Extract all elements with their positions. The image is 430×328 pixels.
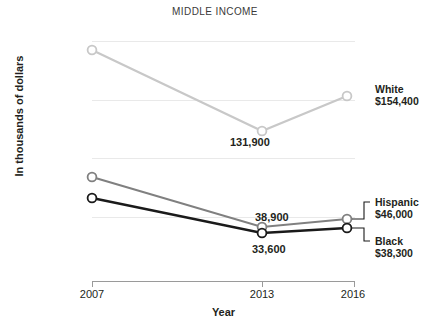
x-tick-mark-2016: [354, 281, 355, 287]
legend-entry-hispanic: Hispanic $46,000: [375, 196, 419, 220]
point-label-white-2013: 131,900: [230, 136, 270, 148]
legend-value-black: $38,300: [375, 247, 413, 259]
gridline-100: [92, 158, 355, 159]
legend-entry-black: Black $38,300: [375, 235, 413, 259]
x-tick-mark-2013: [262, 281, 263, 287]
legend-label-black: Black: [375, 235, 403, 247]
x-axis-title: Year: [92, 306, 355, 318]
x-axis-line: [92, 281, 355, 282]
legend-label-white: White: [375, 83, 404, 95]
legend-entry-white: White $154,400: [375, 83, 419, 107]
point-label-black-2013: 33,600: [252, 243, 286, 255]
x-tick-mark-2007: [92, 281, 93, 287]
gridline-150: [92, 100, 355, 101]
x-tick-label-2013: 2013: [250, 288, 274, 300]
y-axis-title: In thousands of dollars: [13, 41, 25, 191]
plot-area: [92, 36, 355, 281]
gridline-50: [92, 217, 355, 218]
legend-value-white: $154,400: [375, 95, 419, 107]
legend-label-hispanic: Hispanic: [375, 196, 419, 208]
chart-title: MIDDLE INCOME: [0, 6, 430, 17]
gridline-200: [92, 41, 355, 42]
x-tick-label-2007: 2007: [80, 288, 104, 300]
x-tick-label-2016: 2016: [341, 288, 365, 300]
chart-container: MIDDLE INCOME In thousands of dollars 20…: [0, 0, 430, 328]
point-label-hispanic-2013: 38,900: [255, 211, 289, 223]
legend-value-hispanic: $46,000: [375, 208, 419, 220]
